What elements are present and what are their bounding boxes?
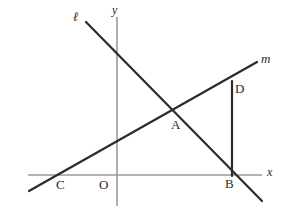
- point-label-c: C: [56, 178, 65, 191]
- y-axis-label: y: [112, 4, 117, 16]
- geometry-figure: ℓ m x y O A B C D: [0, 0, 290, 215]
- point-label-a: A: [171, 118, 180, 131]
- x-axis-label: x: [267, 166, 272, 178]
- lines-group: [29, 22, 262, 201]
- line-l: [86, 22, 262, 201]
- line-m-label: m: [261, 52, 270, 65]
- line-l-label: ℓ: [73, 10, 78, 23]
- point-label-b: B: [225, 177, 234, 190]
- figure-canvas: [0, 0, 290, 215]
- point-label-d: D: [235, 82, 244, 95]
- origin-label: O: [99, 178, 108, 191]
